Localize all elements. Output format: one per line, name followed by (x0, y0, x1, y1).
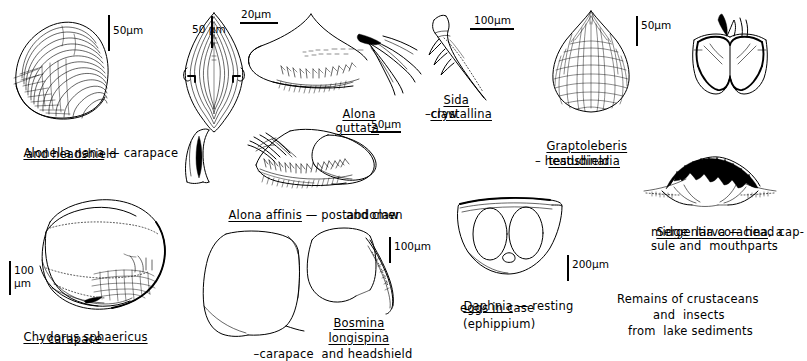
scale-bar-daphnia-line (567, 255, 569, 281)
scale-bar-graptoleberis-label: 50µm (641, 19, 671, 31)
figure-graptoleberis-headshield (550, 8, 632, 120)
footer-line1: Remains of crustaceans (617, 293, 759, 307)
figure-alonella-nana-carapace (6, 12, 116, 127)
figure-bosmina-carapace (200, 228, 310, 340)
scale-bar-alonella-carapace-label: 50µm (113, 24, 143, 36)
scale-bar-chydorus-label1: 100 (14, 264, 34, 276)
caption-daphnia-line3: (ephippium) (463, 318, 535, 332)
illustration-plate: 50µm 50 µm Alonella nana — carapace and … (0, 0, 807, 361)
scale-bar-graptoleberis-line (636, 16, 638, 46)
scale-bar-daphnia-label: 200µm (572, 258, 609, 270)
scale-bar-chydorus-label2: µm (14, 277, 31, 289)
figure-sergentia-head-capsule (640, 155, 780, 207)
caption-bosmina-part1: –carapace (253, 347, 313, 361)
scale-bar-alona-affinis-label: 50µm (371, 118, 401, 130)
figure-alona-affinis-postabdomen (228, 125, 396, 191)
scale-bar-bosmina-label: 100µm (394, 240, 431, 252)
caption-alonella-nana-line2: and headshield (26, 148, 117, 162)
caption-bosmina-part2: and headshield (322, 347, 413, 361)
scale-bar-alonella-headshield-label: 50 µm (192, 23, 226, 35)
scale-bar-bosmina-line (389, 237, 391, 263)
figure-chydorus-carapace (22, 198, 172, 316)
scale-bar-alona-affinis-line (371, 131, 401, 133)
figure-unlabeled-head-fragment (680, 10, 780, 98)
caption-chydorus-line2: – carapace (38, 333, 102, 347)
caption-sida-line3: –claw (425, 108, 458, 122)
figure-daphnia-ephippium (452, 190, 572, 280)
caption-sergentia-line3: sule and mouthparts (651, 240, 778, 254)
caption-daphnia-line2: eggs in case (460, 302, 534, 316)
scale-bar-chydorus-line (9, 261, 11, 295)
caption-graptoleberis-line3: – headshield (535, 155, 610, 169)
figure-alona-affinis-claw (183, 128, 225, 184)
caption-alona-affinis-species: Alona affinis (228, 208, 302, 222)
footer-line2: and insects (653, 309, 725, 323)
scale-bar-alonella-carapace-line (108, 15, 110, 51)
caption-sergentia-line2: midge larva — head cap- (651, 226, 804, 240)
figure-alona-guttata-postabdomen (243, 8, 423, 100)
footer-line3: from lake sediments (628, 325, 753, 339)
caption-alona-affinis-line2: and claw (346, 209, 399, 223)
caption-bosmina-line3: –carapace and headshield (238, 334, 412, 361)
